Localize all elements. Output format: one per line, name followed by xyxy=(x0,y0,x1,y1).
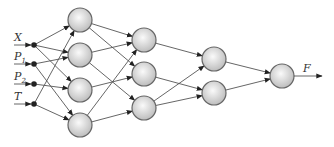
neuron-nodes xyxy=(68,8,294,137)
edge-input-x-to-h1-0 xyxy=(34,26,69,45)
edge-h1-1-to-h2-0 xyxy=(92,43,133,53)
output-node-0 xyxy=(270,64,294,88)
input-p1: P1 xyxy=(13,50,37,67)
edge-h3-1-to-output xyxy=(226,79,271,90)
input-label: P2 xyxy=(13,70,26,85)
edge-input-p1-to-h1-3 xyxy=(34,64,73,115)
hidden-2-node-2 xyxy=(132,96,156,120)
edge-h2-2-to-h3-1 xyxy=(156,96,203,106)
hidden-2-node-1 xyxy=(132,62,156,86)
input-junction-dot xyxy=(31,81,37,87)
hidden-2-node-0 xyxy=(132,28,156,52)
input-layer: XP1P2T xyxy=(13,31,37,107)
edge-h1-0-to-h2-1 xyxy=(89,28,135,67)
edge-h2-2-to-h3-0 xyxy=(154,66,204,101)
hidden-1-node-2 xyxy=(68,78,92,102)
edge-h1-3-to-h2-2 xyxy=(92,111,133,122)
edge-input-t-to-h1-3 xyxy=(34,104,69,120)
edge-h2-0-to-h3-0 xyxy=(156,43,203,56)
edge-input-p2-to-h1-2 xyxy=(34,84,68,88)
hidden-3-node-0 xyxy=(202,47,226,71)
input-label-subscript: 1 xyxy=(21,57,25,65)
neural-network-diagram: XP1P2T F xyxy=(0,0,334,147)
input-p2: P2 xyxy=(13,70,37,87)
input-x: X xyxy=(13,31,37,48)
edge-h3-0-to-output xyxy=(226,62,271,73)
input-junction-dot xyxy=(31,61,37,67)
input-t: T xyxy=(14,90,37,107)
output-label: F xyxy=(302,62,311,75)
edge-h1-3-to-h2-0 xyxy=(87,50,137,116)
input-label: T xyxy=(14,90,23,103)
edge-input-p1-to-h1-1 xyxy=(34,57,68,64)
input-label: P1 xyxy=(13,50,26,65)
input-label: X xyxy=(13,31,23,44)
output-label-group: F xyxy=(294,62,322,76)
hidden-1-node-3 xyxy=(68,113,92,137)
input-label-subscript: 2 xyxy=(20,77,26,85)
hidden-1-node-0 xyxy=(68,8,92,32)
hidden-1-node-1 xyxy=(68,43,92,67)
input-junction-dot xyxy=(31,42,37,48)
edge-h1-1-to-h2-2 xyxy=(89,63,135,101)
hidden-3-node-1 xyxy=(202,81,226,105)
input-junction-dot xyxy=(31,101,37,107)
